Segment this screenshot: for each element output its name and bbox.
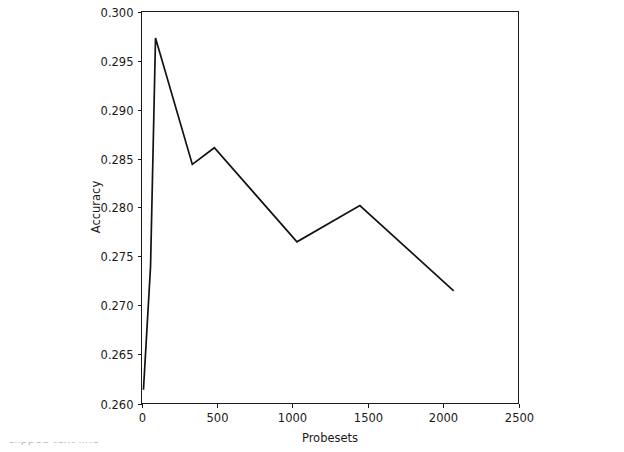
figure-canvas: 0.2600.2650.2700.2750.2800.2850.2900.295… [0,0,624,452]
y-axis-tick-labels: 0.2600.2650.2700.2750.2800.2850.2900.295… [101,6,134,412]
y-tick-label: 0.270 [101,299,134,313]
y-tick-label: 0.290 [101,104,134,118]
y-tick-label: 0.260 [101,398,134,412]
x-tick-label: 2000 [429,411,458,425]
y-axis-title: Accuracy [89,181,103,234]
clipped-caption-strip: clipped text line [0,442,624,452]
y-tick-label: 0.275 [101,250,134,264]
clipped-caption-text: clipped text line [8,442,99,446]
y-tick-label: 0.295 [101,55,134,69]
x-tick-label: 500 [207,411,229,425]
y-tick-label: 0.265 [101,348,134,362]
y-tick-label: 0.285 [101,153,134,167]
x-tick-label: 0 [139,411,146,425]
y-tick-label: 0.280 [101,201,134,215]
x-tick-label: 1500 [354,411,383,425]
y-tick-label: 0.300 [101,6,134,20]
x-tick-label: 1000 [278,411,307,425]
x-tick-label: 2500 [505,411,534,425]
chart-svg: 0.2600.2650.2700.2750.2800.2850.2900.295… [0,0,624,452]
